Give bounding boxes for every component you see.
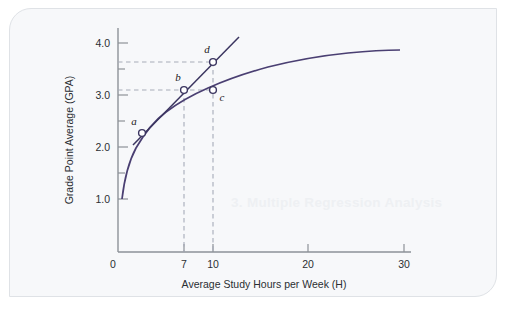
x-tick-label-20: 20	[302, 258, 314, 270]
y-tick-label-4: 4.0	[95, 37, 110, 49]
data-point-label-a: a	[131, 115, 137, 127]
data-point-label-c: c	[220, 91, 225, 103]
production-function-curve	[122, 50, 400, 199]
x-tick-label-10: 10	[207, 258, 219, 270]
y-tick-label-1: 1.0	[95, 193, 110, 205]
x-axis-title: Average Study Hours per Week (H)	[182, 278, 347, 290]
y-axis-title: Grade Point Average (GPA)	[63, 76, 75, 205]
data-point-d	[210, 59, 217, 66]
chart-plot: 4.0 3.0 2.0 1.0 0 7 10 20 30 Average Stu…	[0, 0, 516, 315]
x-tick-label-0: 0	[110, 258, 116, 270]
data-point-label-d: d	[204, 43, 210, 55]
data-point-label-b: b	[175, 71, 181, 83]
data-point-b	[181, 87, 188, 94]
x-tick-label-7: 7	[181, 258, 187, 270]
x-axis-ticks	[184, 244, 404, 252]
x-tick-label-30: 30	[398, 258, 410, 270]
data-point-a	[139, 130, 146, 137]
y-tick-label-3: 3.0	[95, 89, 110, 101]
y-tick-label-2: 2.0	[95, 141, 110, 153]
data-point-c	[210, 87, 217, 94]
